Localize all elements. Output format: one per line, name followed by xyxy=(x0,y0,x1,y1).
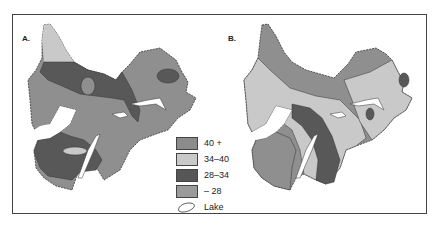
legend-swatch xyxy=(176,153,198,166)
legend: 40 + 34–40 28–34 – 28 Lake xyxy=(176,135,229,215)
legend-item: 40 + xyxy=(176,135,229,151)
legend-item-lake: Lake xyxy=(176,199,229,215)
legend-swatch xyxy=(176,169,198,182)
legend-label: 28–34 xyxy=(204,170,229,180)
legend-swatch xyxy=(176,185,198,198)
legend-label: 40 + xyxy=(204,138,222,148)
lake-icon xyxy=(176,201,198,213)
legend-item: 28–34 xyxy=(176,167,229,183)
legend-label: 34–40 xyxy=(204,154,229,164)
legend-label: – 28 xyxy=(204,186,222,196)
legend-item: – 28 xyxy=(176,183,229,199)
map-b xyxy=(244,24,412,190)
panel-label-b: B. xyxy=(228,34,236,43)
legend-item: 34–40 xyxy=(176,151,229,167)
legend-swatch xyxy=(176,137,198,150)
legend-label: Lake xyxy=(204,202,224,212)
map-a xyxy=(28,24,196,190)
panel-label-a: A. xyxy=(22,34,30,43)
